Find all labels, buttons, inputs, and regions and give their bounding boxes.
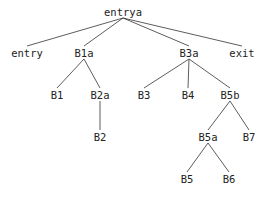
node-entry: entry: [11, 48, 43, 59]
node-b1a: B1a: [75, 48, 94, 59]
edge-b3a-b3: [144, 59, 189, 88]
node-b5a: B5a: [199, 132, 218, 143]
node-b4: B4: [182, 90, 195, 101]
node-b5b: B5b: [221, 90, 240, 101]
edge-entrya-entry: [27, 18, 123, 46]
node-b2a: B2a: [91, 90, 110, 101]
edge-entrya-b3a: [123, 18, 189, 46]
edge-b5a-b6: [208, 143, 229, 172]
node-b7: B7: [243, 132, 256, 143]
node-b3a: B3a: [180, 48, 199, 59]
node-b6: B6: [223, 174, 236, 185]
edge-b1a-b2a: [84, 59, 100, 88]
edge-b3a-b5b: [189, 59, 230, 88]
edge-b5a-b5: [187, 143, 208, 172]
edge-entrya-b1a: [84, 18, 123, 46]
edge-entrya-exit: [123, 18, 242, 46]
edge-b5b-b7: [230, 101, 249, 130]
node-b5: B5: [181, 174, 194, 185]
edge-b5b-b5a: [208, 101, 230, 130]
tree-diagram: entryaentryB1aB3aexitB1B2aB3B4B5bB2B5aB7…: [0, 0, 267, 198]
node-b1: B1: [51, 90, 64, 101]
edge-b3a-b4: [188, 59, 189, 88]
node-exit: exit: [229, 48, 254, 59]
node-entrya: entrya: [104, 7, 142, 18]
edge-b1a-b1: [57, 59, 84, 88]
node-b3: B3: [138, 90, 151, 101]
node-b2: B2: [94, 132, 107, 143]
